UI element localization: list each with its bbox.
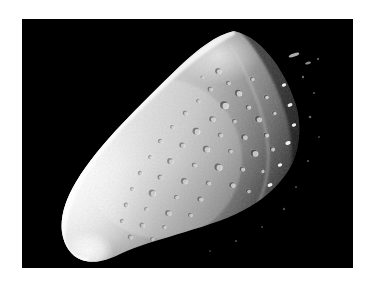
crater <box>150 237 155 241</box>
crater <box>191 162 196 167</box>
crater <box>162 225 167 229</box>
crater <box>205 180 210 185</box>
crater <box>182 110 187 115</box>
crater <box>170 125 175 129</box>
crater <box>174 195 179 200</box>
crater <box>120 219 125 224</box>
crater <box>123 202 128 207</box>
crater <box>179 142 185 148</box>
image-page <box>0 0 374 286</box>
crater <box>246 189 251 194</box>
photo-frame <box>22 19 353 268</box>
crater <box>138 171 143 176</box>
crater <box>139 222 145 227</box>
crater <box>196 99 201 103</box>
crater <box>260 169 265 173</box>
crater <box>269 146 274 151</box>
crater <box>148 155 153 159</box>
crater <box>167 158 174 164</box>
crater <box>239 166 245 171</box>
crater <box>215 68 222 74</box>
crater <box>241 134 248 140</box>
crater <box>209 116 216 122</box>
crater <box>245 104 251 109</box>
crater <box>158 139 163 144</box>
crater <box>272 111 277 115</box>
crater <box>226 81 231 86</box>
asteroid-photograph <box>22 19 353 268</box>
crater <box>217 132 222 137</box>
crater <box>188 213 193 218</box>
crater <box>197 196 203 202</box>
crater <box>263 132 269 137</box>
crater <box>157 174 163 179</box>
crater <box>232 119 237 124</box>
crater <box>228 149 233 154</box>
crater <box>127 234 132 239</box>
crater <box>130 187 135 191</box>
crater <box>200 75 204 78</box>
crater <box>229 182 236 188</box>
crater <box>144 207 149 211</box>
crater <box>250 77 255 81</box>
crater <box>264 95 269 100</box>
crater <box>165 210 172 216</box>
crater <box>207 86 213 91</box>
